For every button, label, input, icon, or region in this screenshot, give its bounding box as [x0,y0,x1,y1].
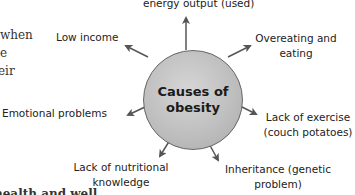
cause-inheritance: Inheritance (genetic problem) [218,162,338,192]
cause-lack-of-exercise-line-2: (couch potatoes) [258,125,355,140]
cause-emotional-problems: Emotional problems [2,106,107,121]
cause-overeating-line-2: eating [246,46,346,61]
cause-inheritance-line-1: Inheritance (genetic [218,162,338,177]
arrow-left [128,107,145,115]
cause-overeating: Overeating and eating [246,31,346,61]
cause-lack-of-nutritional-knowledge: Lack of nutritional knowledge [66,160,176,190]
cause-low-income: Low income [56,30,118,45]
cause-lack-of-exercise: Lack of exercise (couch potatoes) [258,110,355,140]
cause-energy-output: energy output (used) [143,0,243,11]
center-title: Causes of obesity [153,84,233,116]
center-node: Causes of obesity [143,50,243,150]
cause-overeating-line-1: Overeating and [246,31,346,46]
arrow-top-left [126,46,148,57]
cause-lack-of-exercise-line-1: Lack of exercise [258,110,355,125]
cause-nutritional-line-2: knowledge [66,175,176,190]
cause-inheritance-line-2: problem) [218,177,338,192]
cause-nutritional-line-1: Lack of nutritional [66,160,176,175]
